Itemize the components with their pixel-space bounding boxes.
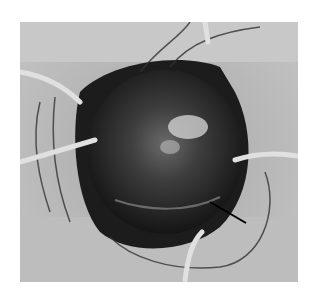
photo-rendering xyxy=(20,22,298,282)
surgical-photograph xyxy=(20,22,298,282)
